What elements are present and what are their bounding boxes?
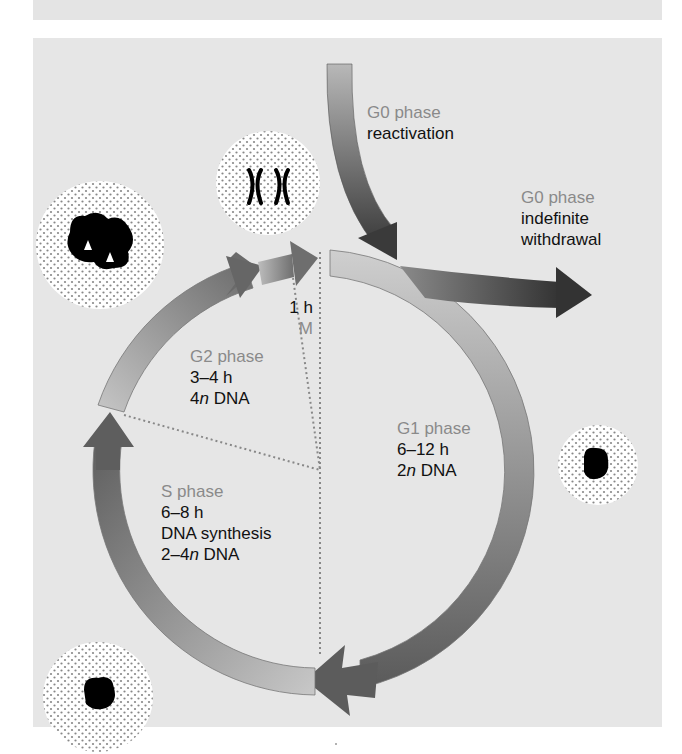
s-phase-dna: 2–4n DNA	[161, 544, 272, 565]
m-arrow	[258, 241, 318, 286]
g1-phase-label: G1 phase 6–12 h 2n DNA	[397, 418, 471, 481]
g0-reactivation-arrow	[327, 64, 397, 260]
m-phase-duration: 1 h	[283, 297, 313, 318]
g1-phase-duration: 6–12 h	[397, 439, 471, 460]
g0-reactivation-desc: reactivation	[367, 123, 454, 144]
g2-cell	[36, 181, 164, 309]
g2-phase-name: G2 phase	[190, 346, 264, 367]
s-phase-duration: 6–8 h	[161, 502, 272, 523]
scan-speck	[335, 743, 337, 745]
g1-phase-name: G1 phase	[397, 418, 471, 439]
g2-phase-dna: 4n DNA	[190, 388, 264, 409]
g0-reactivation-label: G0 phase reactivation	[367, 102, 454, 144]
s-cell	[43, 642, 153, 752]
g1-cell	[558, 425, 638, 505]
g1-phase-dna: 2n DNA	[397, 460, 471, 481]
g0-withdrawal-phase: G0 phase	[521, 187, 601, 208]
m-phase-label: 1 h M	[283, 297, 313, 339]
g2-phase-label: G2 phase 3–4 h 4n DNA	[190, 346, 264, 409]
s-phase-name: S phase	[161, 481, 272, 502]
s-phase-activity: DNA synthesis	[161, 523, 272, 544]
cell-cycle-diagram	[0, 0, 682, 754]
m-phase-name: M	[283, 318, 313, 339]
s-phase-label: S phase 6–8 h DNA synthesis 2–4n DNA	[161, 481, 272, 565]
mitosis-cell	[216, 131, 320, 235]
g0-withdrawal-desc-2: withdrawal	[521, 229, 601, 250]
g2-phase-duration: 3–4 h	[190, 367, 264, 388]
g1-arrow	[305, 250, 534, 716]
g0-withdrawal-desc-1: indefinite	[521, 208, 601, 229]
g0-reactivation-phase: G0 phase	[367, 102, 454, 123]
g0-withdrawal-label: G0 phase indefinite withdrawal	[521, 187, 601, 250]
